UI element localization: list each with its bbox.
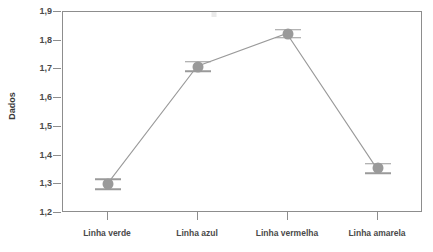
y-axis-tick-mark: [53, 212, 61, 213]
y-axis-tick-label: 1,5: [26, 121, 52, 131]
x-axis-tick-label: Linha azul: [176, 228, 218, 238]
data-point-marker: [373, 163, 384, 174]
chart-container: Dados 1,91,81,71,61,51,41,31,2 Linha ver…: [0, 0, 433, 252]
y-axis-tick-label: 1,3: [26, 178, 52, 188]
y-axis-tick-label: 1,8: [26, 35, 52, 45]
y-axis-tick-label: 1,2: [26, 207, 52, 217]
x-axis-tick-mark: [107, 212, 108, 220]
x-axis-tick-mark: [377, 212, 378, 220]
y-axis-tick-labels: 1,91,81,71,61,51,41,31,2: [22, 0, 52, 252]
x-axis-tick-label: Linha vermelha: [256, 228, 318, 238]
plot-inner: [63, 12, 421, 211]
y-axis-tick-mark: [53, 126, 61, 127]
series-line-path: [63, 12, 421, 212]
y-axis-tick-label: 1,9: [26, 6, 52, 16]
x-axis-tick-mark: [287, 212, 288, 220]
y-axis-tick-mark: [53, 40, 61, 41]
y-axis-tick-label: 1,7: [26, 63, 52, 73]
y-axis-tick-label: 1,6: [26, 92, 52, 102]
y-axis-tick-mark: [53, 155, 61, 156]
plot-area: [62, 11, 422, 212]
x-axis-tick-label: Linha verde: [83, 228, 131, 238]
y-axis-title: Dados: [2, 0, 22, 212]
data-point-marker: [283, 28, 294, 39]
x-axis-tick-mark: [197, 212, 198, 220]
y-axis-tick-label: 1,4: [26, 150, 52, 160]
y-axis-tick-mark: [53, 97, 61, 98]
y-axis-tick-mark: [53, 183, 61, 184]
data-point-marker: [193, 61, 204, 72]
clipped-marker-artifact: [212, 12, 217, 17]
y-axis-title-label: Dados: [7, 92, 17, 120]
x-axis-tick-label: Linha amarela: [348, 228, 405, 238]
y-axis-tick-mark: [53, 11, 61, 12]
data-point-marker: [103, 179, 114, 190]
y-axis-tick-mark: [53, 68, 61, 69]
